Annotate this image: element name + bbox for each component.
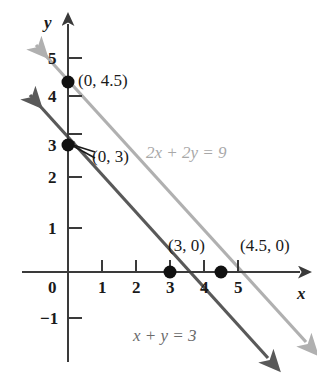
point-0-3 (62, 139, 75, 152)
equation-label-x-y-3: x + y = 3 (133, 327, 197, 344)
y-tick-label-4: 4 (48, 88, 57, 105)
line-x-y-3 (30, 95, 268, 358)
point-4.5-0 (215, 266, 228, 279)
origin-label: 0 (48, 279, 57, 296)
x-tick-label-3: 3 (166, 279, 175, 296)
x-tick-label-2: 2 (132, 279, 141, 296)
x-tick-label-1: 1 (98, 279, 107, 296)
coordinate-plane-figure: y x 0 5 4 3 2 1 −1 1 2 3 4 5 (0, 4.5) (0… (0, 0, 317, 373)
point-3-0 (164, 266, 177, 279)
x-tick-label-5: 5 (234, 279, 243, 296)
point-label-0-3: (0, 3) (92, 148, 129, 165)
x-tick-label-4: 4 (200, 279, 209, 296)
y-tick-label-5: 5 (48, 50, 57, 67)
y-axis-label: y (44, 14, 52, 31)
equation-label-2x-2y-9: 2x + 2y = 9 (146, 144, 227, 161)
y-tick-label-2: 2 (48, 169, 57, 186)
y-tick-label-minus-1: −1 (40, 310, 58, 327)
point-0-4.5 (62, 76, 75, 89)
point-label-4.5-0: (4.5, 0) (240, 237, 290, 254)
x-axis-label: x (297, 285, 306, 302)
point-label-0-4.5: (0, 4.5) (78, 72, 128, 89)
y-tick-label-1: 1 (48, 220, 57, 237)
x-axis (22, 260, 300, 272)
line-2x-2y-9 (36, 45, 306, 342)
y-tick-label-3: 3 (48, 137, 57, 154)
point-label-3-0: (3, 0) (168, 237, 205, 254)
